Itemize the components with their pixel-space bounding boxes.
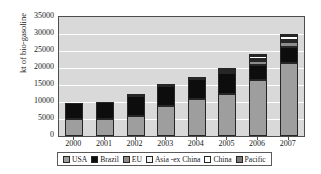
- legend-swatch-icon: [204, 156, 211, 163]
- bar-segment-brazil[interactable]: [65, 103, 83, 119]
- bar-segment-eu[interactable]: [127, 94, 145, 96]
- legend-item-asia-ex-china[interactable]: Asia -ex China: [146, 155, 201, 164]
- y-axis-tick-label: 15000: [20, 80, 54, 88]
- bar-segment-brazil[interactable]: [96, 102, 114, 119]
- bar-chart: kt of bio-gasoline 350003000025000200001…: [0, 0, 321, 174]
- legend-swatch-icon: [236, 156, 243, 163]
- bar-segment-eu[interactable]: [188, 77, 206, 79]
- bar-segment-usa[interactable]: [96, 119, 114, 136]
- x-axis-tick-label: 2007: [268, 139, 308, 148]
- bar-segment-usa[interactable]: [249, 80, 267, 136]
- y-axis-tick-label: 20000: [20, 63, 54, 71]
- legend-label: USA: [72, 155, 87, 164]
- bar-segment-china[interactable]: [249, 56, 267, 59]
- bar-segment-usa[interactable]: [280, 63, 298, 136]
- bar-segment-china[interactable]: [280, 36, 298, 39]
- bar-segment-eu[interactable]: [157, 84, 175, 86]
- bar-segment-asia-ex-china[interactable]: [249, 59, 267, 61]
- x-axis-tick-mark: [104, 137, 105, 140]
- chart-legend: USABrazilEUAsia -ex ChinaChinaPacific: [57, 152, 272, 166]
- bar-segment-usa[interactable]: [127, 116, 145, 136]
- bar-2006[interactable]: [249, 17, 267, 136]
- x-axis-tick-labels: 20002001200220032004200520062007: [58, 139, 305, 151]
- bar-segment-brazil[interactable]: [188, 79, 206, 100]
- plot-area: [58, 16, 305, 137]
- legend-swatch-icon: [91, 156, 98, 163]
- bar-2005[interactable]: [218, 17, 236, 136]
- bar-segment-brazil[interactable]: [127, 96, 145, 116]
- legend-label: Asia -ex China: [155, 155, 201, 164]
- y-axis-tick-label: 25000: [20, 46, 54, 54]
- y-axis-tick-label: 35000: [20, 12, 54, 20]
- bar-2003[interactable]: [157, 17, 175, 136]
- bar-2007[interactable]: [280, 17, 298, 136]
- legend-label: Pacific: [245, 155, 266, 164]
- x-axis-tick-mark: [73, 137, 74, 140]
- legend-item-usa[interactable]: USA: [63, 155, 87, 164]
- x-axis-tick-mark: [226, 137, 227, 140]
- y-axis-tick-label: 0: [20, 131, 54, 139]
- x-axis-tick-mark: [288, 137, 289, 140]
- legend-label: Brazil: [100, 155, 119, 164]
- bar-segment-brazil[interactable]: [218, 73, 236, 94]
- legend-item-brazil[interactable]: Brazil: [91, 155, 119, 164]
- bar-segment-brazil[interactable]: [249, 65, 267, 80]
- legend-label: China: [213, 155, 231, 164]
- bar-2004[interactable]: [188, 17, 206, 136]
- legend-swatch-icon: [123, 156, 130, 163]
- x-axis-tick-mark: [196, 137, 197, 140]
- bar-segment-brazil[interactable]: [157, 86, 175, 107]
- legend-label: EU: [132, 155, 142, 164]
- y-axis-tick-label: 5000: [20, 114, 54, 122]
- legend-swatch-icon: [146, 156, 153, 163]
- bar-segment-usa[interactable]: [188, 99, 206, 136]
- legend-item-china[interactable]: China: [204, 155, 231, 164]
- legend-item-eu[interactable]: EU: [123, 155, 142, 164]
- x-axis-tick-mark: [135, 137, 136, 140]
- bar-segment-usa[interactable]: [157, 106, 175, 136]
- bar-segment-eu[interactable]: [249, 61, 267, 65]
- bar-segment-pacific[interactable]: [249, 54, 267, 56]
- y-axis-tick-label: 30000: [20, 29, 54, 37]
- bar-segment-pacific[interactable]: [280, 34, 298, 36]
- legend-swatch-icon: [63, 156, 70, 163]
- bar-segment-eu[interactable]: [280, 42, 298, 47]
- y-axis-tick-labels: 35000300002500020000150001000050000: [18, 0, 54, 174]
- bar-segment-usa[interactable]: [218, 94, 236, 136]
- bar-2001[interactable]: [96, 17, 114, 136]
- x-axis-tick-mark: [165, 137, 166, 140]
- y-axis-tick-label: 10000: [20, 97, 54, 105]
- bar-2000[interactable]: [65, 17, 83, 136]
- bar-segment-pacific[interactable]: [218, 68, 236, 70]
- legend-item-pacific[interactable]: Pacific: [236, 155, 266, 164]
- bar-series-group: [59, 17, 304, 136]
- bar-segment-brazil[interactable]: [280, 47, 298, 63]
- bar-segment-asia-ex-china[interactable]: [280, 40, 298, 42]
- x-axis-tick-mark: [257, 137, 258, 140]
- bar-segment-usa[interactable]: [65, 119, 83, 136]
- bar-2002[interactable]: [127, 17, 145, 136]
